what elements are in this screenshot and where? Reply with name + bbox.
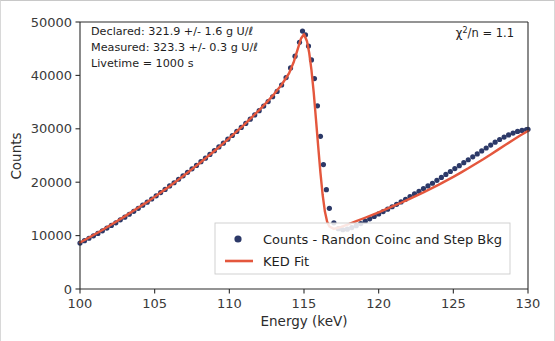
stats-line-3: Livetime = 1000 s xyxy=(91,57,194,70)
data-point xyxy=(510,130,515,135)
data-point xyxy=(475,151,480,156)
legend-label-counts: Counts - Randon Coinc and Step Bkg xyxy=(263,232,502,247)
data-point xyxy=(493,140,498,145)
data-point xyxy=(439,175,444,180)
y-tick-label: 0 xyxy=(64,282,72,297)
x-tick-label: 125 xyxy=(441,296,466,311)
data-point xyxy=(488,142,493,147)
legend-label-fit: KED Fit xyxy=(263,254,309,269)
y-tick-label: 10000 xyxy=(31,228,72,243)
data-point xyxy=(430,181,435,186)
data-point xyxy=(457,163,462,168)
x-axis-title: Energy (keV) xyxy=(261,313,348,329)
data-point xyxy=(434,178,439,183)
legend-marker-counts xyxy=(234,235,241,242)
y-tick-label: 20000 xyxy=(31,175,72,190)
data-point xyxy=(515,129,520,134)
data-point xyxy=(443,172,448,177)
data-point xyxy=(324,187,329,192)
x-tick-label: 100 xyxy=(68,296,93,311)
chi-suffix: /n = 1.1 xyxy=(468,26,514,40)
y-tick-label: 50000 xyxy=(31,15,72,30)
data-point xyxy=(452,166,457,171)
x-axis-ticks: 100105110115120125130 xyxy=(68,289,541,311)
x-tick-label: 120 xyxy=(366,296,391,311)
data-point xyxy=(327,206,332,211)
data-point xyxy=(502,134,507,139)
data-point xyxy=(484,145,489,150)
data-point xyxy=(448,169,453,174)
x-tick-label: 115 xyxy=(292,296,317,311)
y-axis-ticks: 01000020000300004000050000 xyxy=(31,15,80,297)
data-point xyxy=(461,160,466,165)
data-point xyxy=(321,162,326,167)
stats-line-2: Measured: 323.3 +/- 0.3 g U/ℓ xyxy=(91,41,258,54)
data-point xyxy=(470,154,475,159)
y-axis-title: Counts xyxy=(8,132,24,179)
chart-legend: Counts - Randon Coinc and Step Bkg KED F… xyxy=(215,223,510,274)
data-point xyxy=(506,132,511,137)
legend-background xyxy=(215,223,510,274)
x-tick-label: 110 xyxy=(217,296,242,311)
y-tick-label: 30000 xyxy=(31,121,72,136)
chart-canvas: 100105110115120125130 010000200003000040… xyxy=(1,1,555,341)
figure-container: 100105110115120125130 010000200003000040… xyxy=(0,0,555,341)
data-point xyxy=(466,157,471,162)
data-point xyxy=(479,148,484,153)
stats-line-1: Declared: 321.9 +/- 1.6 g U/ℓ xyxy=(91,25,253,38)
x-tick-label: 130 xyxy=(516,296,541,311)
data-point xyxy=(497,137,502,142)
data-point xyxy=(425,183,430,188)
y-tick-label: 40000 xyxy=(31,68,72,83)
x-tick-label: 105 xyxy=(142,296,167,311)
